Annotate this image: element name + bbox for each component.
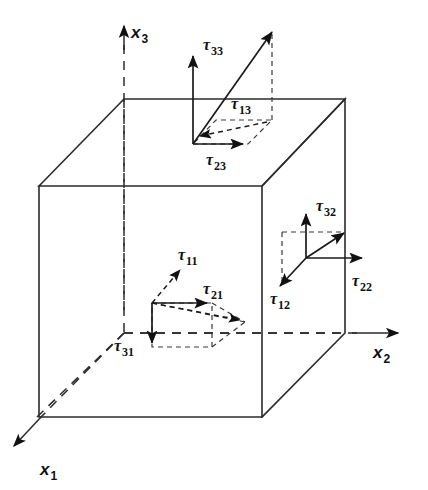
stress-cube-figure: τ33 τ13 τ23 τ11: [0, 0, 428, 490]
stress-cube-svg: τ33 τ13 τ23 τ11: [0, 0, 428, 490]
